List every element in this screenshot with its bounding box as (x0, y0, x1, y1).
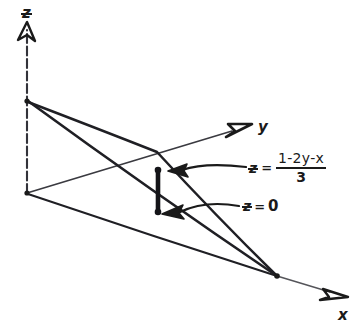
plane-equation-fraction: 1-2y-x 3 (276, 151, 326, 184)
plane-equation-denominator: 3 (296, 169, 306, 185)
base-plane-value: 0 (268, 197, 278, 215)
x-axis-label: x (338, 306, 348, 324)
x-axis-arrowhead-icon (320, 289, 348, 300)
height-segment-bottom-node (155, 209, 162, 216)
base-plane-annotation: z = 0 (243, 197, 279, 215)
z-axis-label: z (22, 4, 31, 22)
height-segment-top-node (155, 167, 162, 174)
base-plane-equals: = (254, 199, 265, 214)
plane-equation-equals: = (261, 160, 272, 175)
x-intercept-node (274, 273, 280, 279)
origin-node (24, 190, 29, 195)
base-plane-variable: z (243, 198, 251, 214)
plane-edge-z-to-x (28, 101, 277, 276)
y-axis-label: y (258, 118, 268, 136)
z-vertex-node (24, 98, 29, 103)
plane-annotation-leader (182, 165, 246, 170)
plane-equation-numerator: 1-2y-x (276, 151, 326, 167)
y-axis-arrowhead-icon (226, 124, 252, 137)
plane-equation-annotation: z = 1-2y-x 3 (249, 151, 326, 184)
plane-equation-variable: z (249, 160, 257, 176)
